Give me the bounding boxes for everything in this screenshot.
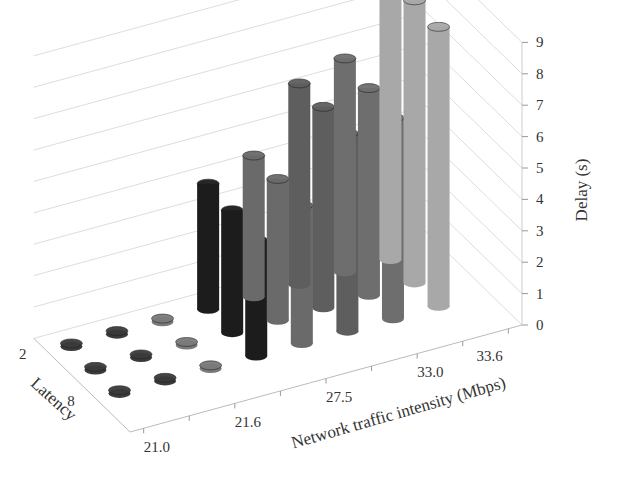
bar [106,326,128,338]
x-axis-title: Network traffic intensity (Mbps) [289,373,508,452]
z-tick-label: 6 [536,129,544,145]
z-tick-label: 9 [536,34,544,50]
bar [197,179,219,314]
bar [358,84,380,300]
z-tick-label: 8 [536,66,544,82]
x-tick-label: 21.6 [235,414,262,430]
z-tick-label: 2 [536,254,544,270]
bar [379,0,401,264]
bar [130,350,152,362]
y-tick-label: 2 [19,346,27,362]
x-tick-label: 21.0 [144,439,170,455]
chart-canvas: 012345678921.021.627.533.033.628 Delay (… [0,0,621,479]
bar [428,22,450,310]
z-axis-title: Delay (s) [572,159,591,222]
bar [84,362,106,374]
bars [60,0,449,398]
bar [243,151,265,301]
x-tick-label: 33.6 [476,348,503,364]
z-tick-label: 5 [536,160,544,176]
z-tick-label: 7 [536,97,544,113]
x-tick-label: 33.0 [417,364,443,380]
x-tick-label: 27.5 [326,389,352,405]
bar [60,339,82,351]
z-tick-label: 4 [536,191,544,207]
bar [221,206,243,337]
bar [267,174,289,324]
bar [200,361,222,373]
z-tick-label: 0 [536,317,544,333]
bar [154,373,176,385]
z-tick-label: 1 [536,286,544,302]
bar [152,314,174,326]
bar [334,54,356,277]
bar [288,79,310,289]
bar [176,337,198,349]
bar [312,102,334,312]
bar [404,0,426,287]
bar [108,386,130,398]
z-tick-label: 3 [536,223,544,239]
